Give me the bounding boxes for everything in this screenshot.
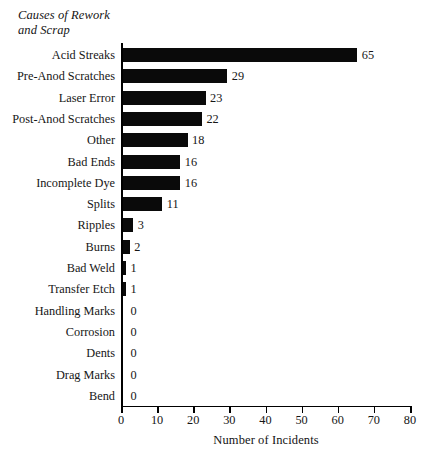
category-label: Bend <box>0 384 115 408</box>
bar <box>123 197 163 211</box>
x-tick <box>229 406 231 413</box>
x-tick <box>374 406 376 413</box>
bar <box>123 112 202 126</box>
x-tick <box>302 406 304 413</box>
bar-value-label: 0 <box>131 384 137 408</box>
x-tick-label: 70 <box>354 413 394 428</box>
bar <box>123 48 358 62</box>
bar <box>123 155 181 169</box>
x-tick <box>121 406 123 413</box>
y-axis-title: Causes of Rework and Scrap <box>18 8 128 37</box>
bar <box>123 218 134 232</box>
bar <box>123 91 206 105</box>
bar <box>123 133 188 147</box>
x-tick-label: 80 <box>390 413 426 428</box>
x-tick-label: 0 <box>101 413 141 428</box>
bar-row: Bend0 <box>0 384 426 408</box>
x-tick <box>193 406 195 413</box>
x-tick-label: 30 <box>209 413 249 428</box>
x-tick <box>266 406 268 413</box>
bar <box>123 240 130 254</box>
x-tick-label: 60 <box>318 413 358 428</box>
pareto-bar-chart: Causes of Rework and Scrap Acid Streaks6… <box>0 0 426 456</box>
x-tick <box>338 406 340 413</box>
bar <box>123 282 127 296</box>
x-tick-label: 10 <box>137 413 177 428</box>
x-tick-label: 20 <box>173 413 213 428</box>
x-tick <box>157 406 159 413</box>
x-axis-title: Number of Incidents <box>121 433 411 448</box>
x-tick <box>410 406 412 413</box>
bar <box>123 261 127 275</box>
x-tick-label: 50 <box>282 413 322 428</box>
x-tick-label: 40 <box>246 413 286 428</box>
bar <box>123 69 228 83</box>
bar <box>123 176 181 190</box>
